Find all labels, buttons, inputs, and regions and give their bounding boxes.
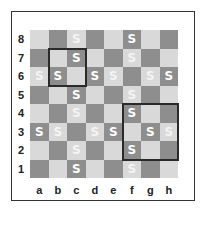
square-c8[interactable]: S (67, 30, 86, 49)
square-b2[interactable] (49, 141, 68, 160)
piece-b6[interactable]: S (53, 70, 62, 82)
piece-c1[interactable]: S (72, 163, 81, 175)
square-e3[interactable]: S (104, 123, 123, 142)
square-b1[interactable] (49, 160, 68, 179)
square-b3[interactable]: S (49, 123, 68, 142)
square-f8[interactable]: S (123, 30, 142, 49)
piece-c5[interactable]: S (72, 89, 81, 101)
square-a1[interactable] (30, 160, 49, 179)
piece-e6[interactable]: S (109, 70, 118, 82)
rank-label-5: 5 (15, 86, 27, 105)
piece-d3[interactable]: S (90, 126, 99, 138)
rank-label-2: 2 (15, 141, 27, 160)
square-c5[interactable]: S (67, 86, 86, 105)
square-e4[interactable] (104, 104, 123, 123)
piece-c4[interactable]: S (72, 107, 81, 119)
square-b4[interactable] (49, 104, 68, 123)
square-e7[interactable] (104, 49, 123, 68)
square-d3[interactable]: S (86, 123, 105, 142)
file-label-b: b (49, 183, 68, 197)
chess-board: SSSSSSSSSSSSSSSSSSSSSSSS (30, 30, 178, 178)
square-e2[interactable] (104, 141, 123, 160)
square-d6[interactable]: S (86, 67, 105, 86)
piece-h6[interactable]: S (164, 70, 173, 82)
piece-d6[interactable]: S (90, 70, 99, 82)
square-c3[interactable] (67, 123, 86, 142)
piece-f7[interactable]: S (127, 52, 136, 64)
square-e1[interactable] (104, 160, 123, 179)
file-label-e: e (104, 183, 123, 197)
piece-g3[interactable]: S (146, 126, 155, 138)
piece-b3[interactable]: S (53, 126, 62, 138)
square-a5[interactable] (30, 86, 49, 105)
square-f1[interactable]: S (123, 160, 142, 179)
square-h7[interactable] (160, 49, 179, 68)
square-g4[interactable] (141, 104, 160, 123)
square-d5[interactable] (86, 86, 105, 105)
square-c1[interactable]: S (67, 160, 86, 179)
square-a2[interactable] (30, 141, 49, 160)
rank-label-6: 6 (15, 67, 27, 86)
square-c2[interactable]: S (67, 141, 86, 160)
square-g5[interactable] (141, 86, 160, 105)
file-label-f: f (123, 183, 142, 197)
square-g1[interactable] (141, 160, 160, 179)
square-h8[interactable] (160, 30, 179, 49)
piece-e3[interactable]: S (109, 126, 118, 138)
square-b8[interactable] (49, 30, 68, 49)
square-h4[interactable] (160, 104, 179, 123)
square-d8[interactable] (86, 30, 105, 49)
square-c4[interactable]: S (67, 104, 86, 123)
square-h6[interactable]: S (160, 67, 179, 86)
square-f3[interactable] (123, 123, 142, 142)
square-a7[interactable] (30, 49, 49, 68)
square-g2[interactable] (141, 141, 160, 160)
square-b7[interactable] (49, 49, 68, 68)
square-f7[interactable]: S (123, 49, 142, 68)
square-f4[interactable]: S (123, 104, 142, 123)
piece-a6[interactable]: S (35, 70, 44, 82)
square-f5[interactable]: S (123, 86, 142, 105)
square-h2[interactable] (160, 141, 179, 160)
piece-f5[interactable]: S (127, 89, 136, 101)
piece-c2[interactable]: S (72, 144, 81, 156)
piece-f2[interactable]: S (127, 144, 136, 156)
square-e5[interactable] (104, 86, 123, 105)
square-d4[interactable] (86, 104, 105, 123)
square-d7[interactable] (86, 49, 105, 68)
square-e8[interactable] (104, 30, 123, 49)
square-f6[interactable] (123, 67, 142, 86)
square-a3[interactable]: S (30, 123, 49, 142)
square-e6[interactable]: S (104, 67, 123, 86)
square-b5[interactable] (49, 86, 68, 105)
square-h5[interactable] (160, 86, 179, 105)
square-g8[interactable] (141, 30, 160, 49)
piece-f4[interactable]: S (127, 107, 136, 119)
square-b6[interactable]: S (49, 67, 68, 86)
piece-c7[interactable]: S (72, 52, 81, 64)
piece-h3[interactable]: S (164, 126, 173, 138)
file-label-h: h (160, 183, 179, 197)
rank-label-1: 1 (15, 160, 27, 179)
square-d1[interactable] (86, 160, 105, 179)
rank-label-3: 3 (15, 123, 27, 142)
square-f2[interactable]: S (123, 141, 142, 160)
piece-a3[interactable]: S (35, 126, 44, 138)
square-g3[interactable]: S (141, 123, 160, 142)
piece-c8[interactable]: S (72, 33, 81, 45)
piece-f8[interactable]: S (127, 33, 136, 45)
file-label-g: g (141, 183, 160, 197)
square-h1[interactable] (160, 160, 179, 179)
square-h3[interactable]: S (160, 123, 179, 142)
square-g6[interactable]: S (141, 67, 160, 86)
square-c7[interactable]: S (67, 49, 86, 68)
square-g7[interactable] (141, 49, 160, 68)
square-d2[interactable] (86, 141, 105, 160)
piece-g6[interactable]: S (146, 70, 155, 82)
square-a4[interactable] (30, 104, 49, 123)
square-c6[interactable] (67, 67, 86, 86)
square-a6[interactable]: S (30, 67, 49, 86)
square-a8[interactable] (30, 30, 49, 49)
piece-f1[interactable]: S (127, 163, 136, 175)
rank-label-4: 4 (15, 104, 27, 123)
